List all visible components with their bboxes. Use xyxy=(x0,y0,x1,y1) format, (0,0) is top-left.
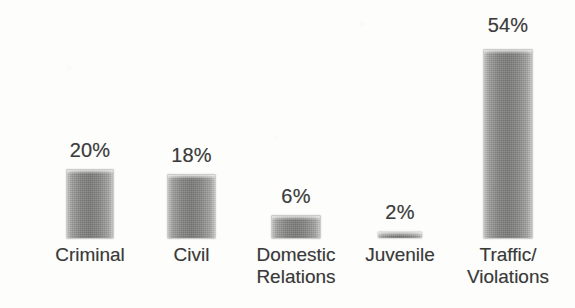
bar-criminal xyxy=(67,170,113,238)
value-label-civil: 18% xyxy=(146,144,238,166)
chart-plot-area: 20% Criminal 18% Civil 6% Domestic Relat… xyxy=(0,0,575,308)
category-label-traffic-violations-line-2: Violations xyxy=(443,266,573,288)
bar-chart-figure: 20% Criminal 18% Civil 6% Domestic Relat… xyxy=(0,0,575,308)
value-label-traffic-violations: 54% xyxy=(462,14,554,36)
bar-civil xyxy=(168,175,215,238)
value-label-domestic-relations: 6% xyxy=(250,185,342,207)
bar-traffic-violations xyxy=(484,50,532,238)
bar-domestic-relations xyxy=(272,216,320,238)
value-label-criminal: 20% xyxy=(44,139,136,161)
category-label-traffic-violations-line-1: Traffic/ xyxy=(443,244,573,266)
value-label-juvenile: 2% xyxy=(354,201,446,223)
bar-juvenile xyxy=(378,232,422,238)
category-label-traffic-violations: Traffic/ Violations xyxy=(443,244,573,288)
category-label-domestic-relations-line-2: Relations xyxy=(231,266,361,288)
